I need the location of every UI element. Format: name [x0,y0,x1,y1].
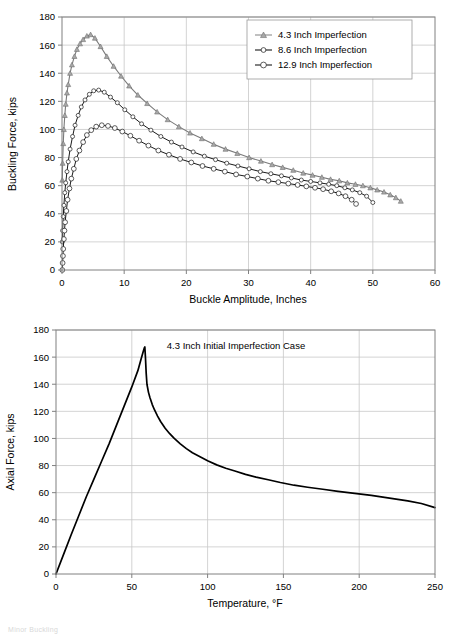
data-point-marker [269,172,273,176]
data-point-marker [258,170,262,174]
data-point-marker [159,134,163,138]
legend-top[interactable]: 4.3 Inch Imperfection8.6 Inch Imperfecti… [247,20,412,79]
x-tick-label: 50 [368,277,379,288]
y-tick-label: 160 [33,352,49,363]
data-point-marker [64,209,69,214]
data-point-marker [131,115,135,119]
page-caption-fragment: Minor Buckling [8,626,58,633]
data-point-marker [247,167,251,171]
y-tick-label: 180 [39,11,55,22]
data-point-marker [354,202,359,207]
data-point-marker [365,194,369,198]
data-point-marker [115,101,119,105]
data-point-marker [64,181,68,185]
data-point-marker [393,195,398,200]
y-tick-label: 40 [44,208,55,219]
x-tick-label: 0 [59,277,64,288]
x-tick-label: 40 [305,277,316,288]
data-point-marker [69,176,74,181]
data-point-marker [295,183,300,188]
data-point-marker [189,160,194,165]
series-group-bottom [56,347,435,574]
x-tick-label: 200 [351,581,367,592]
y-tick-label: 0 [50,264,55,275]
data-point-marker [327,182,331,186]
data-point-marker [60,261,65,266]
x-tick-label: 50 [127,581,138,592]
data-point-marker [211,166,216,171]
x-tick-label: 10 [119,277,130,288]
data-point-marker [349,197,354,202]
y-tick-label: 140 [39,68,55,79]
data-point-marker [343,186,347,190]
data-point-marker [279,174,283,178]
y-tick-label: 80 [38,460,49,471]
y-tick-label: 100 [39,124,55,135]
data-point-marker [102,90,106,94]
y-tick-label: 60 [38,487,49,498]
x-axis-ticks-bottom: 050100150200250 [53,574,443,592]
data-point-marker [321,187,326,192]
data-point-marker [149,128,153,132]
data-point-marker [71,134,75,138]
data-point-marker [62,113,67,118]
buckling-force-chart: 0102030405060 020406080100120140160180 B… [0,0,460,318]
data-point-marker [128,133,133,138]
data-point-marker [236,164,240,168]
y-tick-label: 0 [44,568,49,579]
y-tick-label: 20 [44,236,55,247]
data-point-marker [72,54,77,59]
data-point-marker [74,157,79,162]
y-tick-label: 120 [33,406,49,417]
y-tick-label: 160 [39,40,55,51]
data-point-marker [68,147,72,151]
data-point-marker [188,130,193,135]
data-point-marker [222,169,227,174]
data-point-marker [88,32,93,37]
data-point-marker [66,160,70,164]
x-tick-label: 60 [430,277,441,288]
x-tick-label: 150 [275,581,291,592]
data-point-marker [61,254,66,259]
data-point-marker [343,194,348,199]
data-point-marker [245,174,250,179]
x-axis-title-bottom: Temperature, °F [207,597,282,609]
y-tick-label: 40 [38,514,49,525]
plot-frame [56,330,435,574]
y-axis-title-top: Buckling Force, kips [6,97,18,191]
data-point-marker [309,179,313,183]
data-point-marker [99,123,104,128]
gridlines-bottom [56,330,435,574]
data-point-marker [112,126,117,131]
x-tick-label: 0 [53,581,58,592]
x-tick-label: 20 [181,277,192,288]
data-point-marker [169,140,173,144]
data-point-marker [65,170,69,174]
y-tick-label: 180 [33,324,49,335]
series-line-2 [62,125,356,270]
y-tick-label: 20 [38,541,49,552]
case-annotation: 4.3 Inch Initial Imperfection Case [167,340,305,351]
data-point-marker [108,95,112,99]
data-point-marker [276,180,281,185]
data-point-marker [225,161,229,165]
y-axis-ticks-top: 020406080100120140160180 [39,11,62,275]
data-point-marker [336,191,341,196]
data-point-marker [62,228,67,233]
y-tick-label: 80 [44,152,55,163]
x-axis-ticks-top: 0102030405060 [59,270,440,288]
x-tick-label: 30 [243,277,254,288]
data-point-marker [66,82,71,87]
data-point-marker [289,176,293,180]
data-point-marker [69,62,74,67]
data-point-marker [191,150,195,154]
data-point-marker [61,141,66,146]
data-point-marker [304,184,309,189]
y-tick-label: 140 [33,379,49,390]
data-point-marker [329,189,334,194]
data-point-marker [358,191,362,195]
data-point-marker [214,158,218,162]
data-point-marker [202,154,206,158]
x-tick-label: 250 [427,581,443,592]
data-point-marker [156,148,161,153]
